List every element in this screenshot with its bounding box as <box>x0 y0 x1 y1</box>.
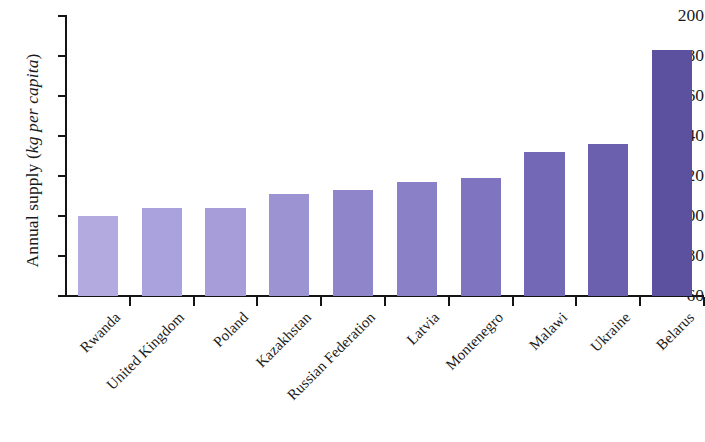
x-tick-label-text: Ukraine <box>588 309 635 356</box>
x-tick-mark <box>193 297 195 306</box>
x-tick-label-latvia: Latvia <box>403 309 443 349</box>
x-tick-label-text: Kazakhstan <box>253 309 315 371</box>
x-tick-label-poland: Poland <box>210 309 252 351</box>
x-tick-mark <box>384 297 386 306</box>
x-tick-mark <box>129 297 131 306</box>
bar-malawi <box>524 152 564 296</box>
x-tick-mark <box>448 297 450 306</box>
bar-belarus <box>652 50 692 296</box>
bar-russian-federation <box>333 190 373 296</box>
y-axis-title-plain: Annual supply ( <box>22 153 42 267</box>
x-tick-label-text: Rwanda <box>77 309 124 356</box>
x-tick-label-malawi: Malawi <box>526 309 571 354</box>
x-tick-label-text: Poland <box>210 309 252 351</box>
x-tick-mark <box>320 297 322 306</box>
x-tick-label-text: Malawi <box>526 309 571 354</box>
bar-montenegro <box>461 178 501 296</box>
y-axis-title-close: ) <box>22 54 42 60</box>
bar-rwanda <box>78 216 118 296</box>
x-tick-label-text: Belarus <box>653 309 698 354</box>
x-tick-label-text: Montenegro <box>442 309 507 374</box>
x-tick-mark <box>256 297 258 306</box>
bar-united-kingdom <box>142 208 182 296</box>
x-tick-label-belarus: Belarus <box>653 309 698 354</box>
y-axis-title: Annual supply (kg per capita) <box>22 11 43 311</box>
bar-latvia <box>397 182 437 296</box>
x-tick-mark <box>512 297 514 306</box>
bar-poland <box>205 208 245 296</box>
bar-kazakhstan <box>269 194 309 296</box>
bar-ukraine <box>588 144 628 296</box>
x-tick-mark <box>575 297 577 306</box>
x-tick-label-rwanda: Rwanda <box>77 309 124 356</box>
x-tick-mark <box>639 297 641 306</box>
x-tick-label-kazakhstan: Kazakhstan <box>253 309 315 371</box>
x-tick-label-montenegro: Montenegro <box>442 309 507 374</box>
y-axis-title-italic: kg per capita <box>22 60 42 154</box>
bar-series <box>66 16 704 296</box>
x-tick-label-text: Latvia <box>403 309 443 349</box>
x-tick-label-ukraine: Ukraine <box>588 309 635 356</box>
